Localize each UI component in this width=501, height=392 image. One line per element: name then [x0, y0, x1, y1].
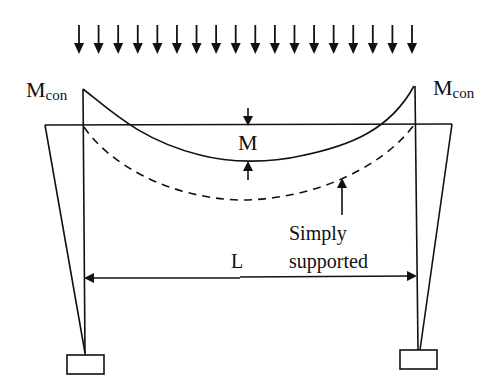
simply-supported-label-line2: supported — [289, 250, 368, 273]
simply-supported-label-line1: Simply — [289, 222, 347, 245]
midspan-moment-label: M — [238, 130, 258, 155]
load-arrow-head-icon — [113, 43, 123, 54]
load-arrow-head-icon — [309, 43, 319, 54]
load-arrow-head-icon — [74, 43, 84, 54]
right-column — [415, 86, 418, 350]
load-arrow-head-icon — [329, 43, 339, 54]
load-arrow-head-icon — [368, 43, 378, 54]
load-arrow-head-icon — [133, 43, 143, 54]
load-arrow-head-icon — [211, 43, 221, 54]
load-arrow-head-icon — [94, 43, 104, 54]
load-arrow-head-icon — [387, 43, 397, 54]
load-arrow-head-icon — [270, 43, 280, 54]
load-arrow-head-icon — [231, 43, 241, 54]
load-arrow-head-icon — [348, 43, 358, 54]
load-arrow-head-icon — [250, 43, 260, 54]
load-arrow-head-icon — [407, 43, 417, 54]
distributed-load-arrows — [74, 25, 417, 54]
span-label: L — [231, 250, 243, 272]
load-arrow-head-icon — [192, 43, 202, 54]
load-arrow-head-icon — [172, 43, 182, 54]
left-support — [67, 355, 104, 374]
right-moment-label: Mcon — [433, 75, 475, 101]
load-arrow-head-icon — [289, 43, 299, 54]
portal-frame-diagram: M Mcon Mcon Simply supported L — [0, 0, 501, 392]
load-arrow-head-icon — [152, 43, 162, 54]
right-support — [400, 350, 437, 369]
right-column-moment-diagram — [420, 124, 452, 350]
left-column-moment-diagram — [45, 125, 85, 353]
span-dimension-arrow-right — [240, 276, 415, 277]
beam-line — [45, 124, 452, 125]
left-moment-label: Mcon — [26, 77, 68, 103]
